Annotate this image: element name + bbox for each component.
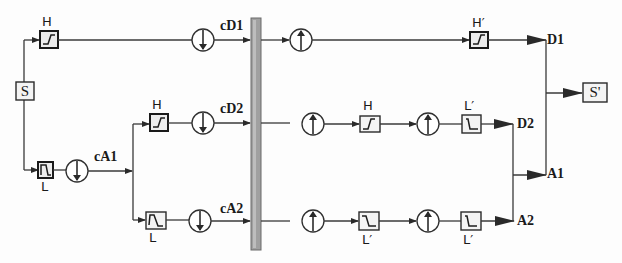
filter-label-row3-l-prime-b: L′ [463, 233, 473, 246]
filter-label-row3-l: L [149, 231, 156, 244]
lowpass-recon-filter-row2 [462, 115, 481, 133]
bar-highlight [253, 20, 256, 248]
d2-a2-sum-lines [513, 124, 546, 221]
downsample-icon-level1 [66, 160, 88, 182]
highpass-filter-row2 [150, 114, 168, 131]
filter-label-level1-l: L [41, 180, 48, 193]
signal-label-ca2: cA2 [220, 202, 243, 216]
signal-label-ca1: cA1 [94, 150, 117, 164]
wavelet-decomposition-reconstruction-diagram: S S' H L H L H′ H L′ L′ L′ cD1 cD2 cA1 c… [0, 0, 622, 263]
filter-label-row3-l-prime-a: L′ [362, 233, 372, 246]
upsample-icon-row1 [290, 29, 312, 51]
d1-a1-sum-lines [546, 40, 582, 175]
input-split-lines [24, 40, 39, 170]
filter-label-row2-h: H [152, 98, 162, 111]
highpass-recon-filter-row1 [470, 32, 488, 48]
upsample-icon-row3b [417, 210, 439, 232]
output-signal-label: S' [583, 85, 607, 100]
level2-split-lines [133, 124, 149, 220]
input-signal-label: S [16, 84, 34, 99]
lowpass-recon-filter-row3a [359, 212, 379, 230]
upsample-icon-row2b [417, 113, 439, 135]
signal-label-a2: A2 [517, 214, 534, 228]
highpass-recon-filter-row2 [360, 116, 380, 132]
downsample-icon-row3 [189, 210, 211, 232]
upsample-icon-row3 [302, 210, 324, 232]
signal-label-d2: D2 [517, 117, 534, 131]
signal-label-a1: A1 [547, 167, 564, 181]
highpass-filter-row1 [40, 31, 58, 48]
filter-label-row1-h-prime: H′ [472, 16, 485, 29]
filter-label-row2-h-recon: H [363, 99, 373, 112]
lowpass-filter-row3 [146, 212, 166, 229]
filter-label-row1-h: H [42, 15, 52, 28]
lowpass-recon-filter-row3b [461, 212, 481, 230]
filter-label-row2-l-prime: L′ [464, 99, 474, 112]
signal-label-cd2: cD2 [220, 102, 243, 116]
signal-label-cd1: cD1 [220, 19, 243, 33]
downsample-icon-row2 [192, 112, 214, 134]
upsample-icon-row2 [302, 113, 324, 135]
downsample-icon-row1 [192, 29, 214, 51]
lowpass-filter-level1 [38, 162, 53, 178]
signal-label-d1: D1 [547, 33, 564, 47]
